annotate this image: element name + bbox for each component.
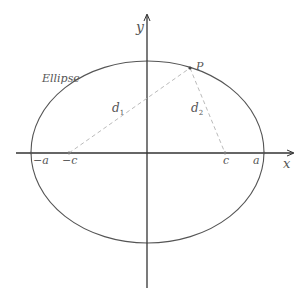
- tick-neg-a-label: −a: [33, 154, 49, 167]
- tick-pos-a-label: a: [253, 154, 260, 167]
- diagram-svg: y x Ellipse P −a −c c a d1 d2: [0, 0, 306, 302]
- ellipse-label: Ellipse: [41, 72, 80, 85]
- d2-label: d2: [191, 101, 203, 117]
- d1-segment: [69, 68, 190, 153]
- y-axis-label: y: [135, 19, 145, 35]
- point-p-label: P: [195, 60, 204, 73]
- x-axis-label: x: [283, 156, 291, 171]
- d2-subscript: 2: [199, 109, 203, 117]
- tick-neg-c-label: −c: [62, 154, 77, 167]
- vertex-pos-a: [263, 152, 266, 155]
- ellipse-diagram: y x Ellipse P −a −c c a d1 d2: [0, 0, 306, 302]
- tick-pos-c-label: c: [223, 154, 229, 167]
- vertex-neg-a: [30, 152, 33, 155]
- d1-label: d1: [112, 101, 124, 117]
- point-p: [188, 66, 191, 69]
- d1-subscript: 1: [120, 109, 124, 117]
